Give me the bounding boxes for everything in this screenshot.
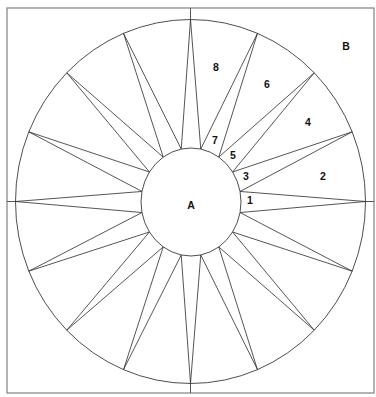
label-2: 2 bbox=[320, 170, 326, 182]
star-point-edge bbox=[201, 255, 258, 370]
star-point-edge bbox=[219, 247, 258, 370]
star-point-edge bbox=[233, 232, 315, 330]
label-b: B bbox=[342, 40, 350, 52]
star-point-edge bbox=[29, 132, 150, 172]
star-point-edge bbox=[67, 247, 163, 330]
star-point-edge bbox=[67, 73, 150, 172]
star-point-edge bbox=[233, 73, 315, 172]
star-point-edge bbox=[124, 33, 164, 157]
label-8: 8 bbox=[213, 61, 219, 73]
star-point-edge bbox=[124, 255, 182, 370]
label-5: 5 bbox=[230, 149, 236, 161]
label-a: A bbox=[187, 199, 195, 211]
star-point-edge bbox=[181, 255, 190, 384]
label-7: 7 bbox=[212, 134, 218, 146]
label-4: 4 bbox=[305, 116, 311, 128]
star-point-edge bbox=[67, 232, 150, 330]
star-point-edge bbox=[240, 191, 365, 201]
label-6: 6 bbox=[264, 78, 270, 90]
star-point-edge bbox=[233, 232, 353, 271]
star-point-edge bbox=[191, 20, 201, 150]
label-3: 3 bbox=[243, 170, 249, 182]
star-point-edge bbox=[219, 247, 314, 330]
piece-labels: A B 1 2 3 4 5 6 7 8 bbox=[187, 40, 350, 211]
star-point-edge bbox=[16, 202, 142, 213]
star-point-edge bbox=[219, 33, 258, 157]
star-point-edge bbox=[240, 132, 352, 192]
star-point-edge bbox=[16, 191, 142, 201]
star-point-edge bbox=[201, 33, 258, 149]
label-1: 1 bbox=[247, 194, 253, 206]
star-point-edge bbox=[124, 247, 164, 370]
star-point-edge bbox=[29, 232, 150, 271]
star-point-edge bbox=[29, 132, 142, 192]
star-point-edge bbox=[233, 132, 353, 172]
star-point-edge bbox=[29, 213, 142, 272]
compass-star-diagram: A B 1 2 3 4 5 6 7 8 bbox=[0, 0, 376, 397]
star-point-edge bbox=[240, 213, 352, 272]
star-point-edge bbox=[191, 255, 201, 384]
star-point-edge bbox=[181, 20, 190, 150]
star-point-edge bbox=[240, 202, 365, 213]
star-point-edge bbox=[124, 33, 182, 149]
star-point-edge bbox=[67, 73, 163, 157]
